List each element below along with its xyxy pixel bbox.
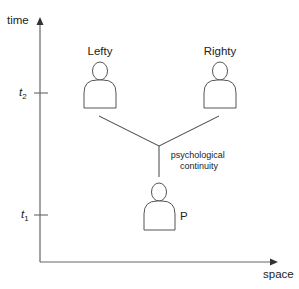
space-axis-arrow-icon xyxy=(270,259,278,266)
person-icon-body xyxy=(144,201,175,230)
person-icon-body xyxy=(84,80,116,108)
person-icon-head xyxy=(93,62,108,80)
diagram-canvas: time space t2 t1 Lefty Righty psychologi… xyxy=(0,0,299,289)
person-lefty: Lefty xyxy=(84,45,116,108)
branch-to-lefty xyxy=(99,116,159,146)
person-lefty-label: Lefty xyxy=(88,45,113,57)
branch-to-righty xyxy=(159,116,219,146)
person-righty: Righty xyxy=(204,45,237,108)
person-righty-label: Righty xyxy=(204,45,237,57)
person-icon-body xyxy=(204,80,236,108)
tick-label-t2: t2 xyxy=(19,86,27,101)
relation-label: psychological continuity xyxy=(171,150,228,171)
person-p-label: P xyxy=(180,210,188,222)
person-icon-head xyxy=(213,62,228,80)
tick-label-t1: t1 xyxy=(21,208,29,223)
person-p: P xyxy=(144,183,188,230)
time-axis-label: time xyxy=(7,14,29,26)
space-axis-label: space xyxy=(263,268,294,280)
time-axis-arrow-icon xyxy=(37,17,44,25)
person-icon-head xyxy=(152,183,167,201)
